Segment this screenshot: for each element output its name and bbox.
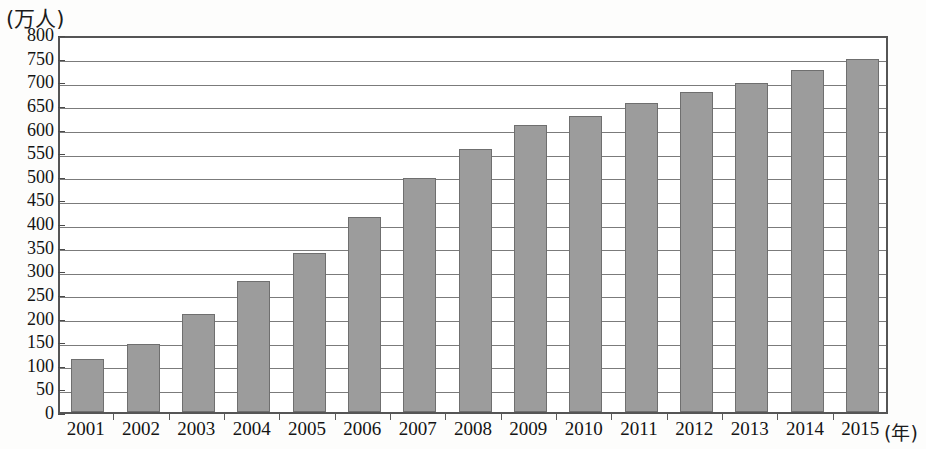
x-axis-tick-labels: 2001200220032004200520062007200820092010…	[58, 418, 888, 448]
bar	[459, 149, 492, 412]
bar-series	[60, 38, 886, 412]
bar	[293, 253, 326, 412]
x-axis-tick-mark	[169, 414, 170, 420]
x-axis-tick-mark	[390, 414, 391, 420]
y-axis-tick-mark	[58, 296, 65, 297]
y-axis-tick-mark	[58, 390, 65, 391]
y-axis-tick-mark	[58, 343, 65, 344]
y-axis-tick: 800	[2, 25, 54, 46]
y-axis-tick-mark	[58, 272, 65, 273]
x-axis-tick-mark	[556, 414, 557, 420]
x-axis-tick-mark	[722, 414, 723, 420]
y-axis-tick: 50	[2, 380, 54, 401]
bar	[735, 83, 768, 412]
x-axis-tick-mark	[777, 414, 778, 420]
x-axis-tick-mark	[279, 414, 280, 420]
y-axis-tick-mark	[58, 414, 65, 415]
y-axis-tick: 450	[2, 191, 54, 212]
bar	[127, 344, 160, 412]
bar	[348, 217, 381, 412]
y-axis-tick-labels: 0501001502002503003504004505005506006507…	[0, 36, 54, 414]
bar	[791, 70, 824, 412]
y-axis-tick: 200	[2, 309, 54, 330]
y-axis-tick: 250	[2, 285, 54, 306]
y-axis-tick: 0	[2, 403, 54, 424]
y-axis-tick-mark	[58, 83, 65, 84]
bar	[237, 281, 270, 412]
bar	[71, 359, 104, 412]
x-axis-tick-mark	[335, 414, 336, 420]
y-axis-tick-mark	[58, 36, 65, 37]
bar	[625, 103, 658, 412]
y-axis-tick-mark	[58, 107, 65, 108]
y-axis-tick-mark	[58, 131, 65, 132]
x-axis-unit-label: (年)	[884, 418, 918, 445]
y-axis-tick: 300	[2, 262, 54, 283]
y-axis-tick-mark	[58, 249, 65, 250]
y-axis-tick: 550	[2, 143, 54, 164]
y-axis-tick-mark	[58, 320, 65, 321]
bar	[514, 125, 547, 412]
x-axis-tick-mark	[833, 414, 834, 420]
x-axis-tick-mark	[445, 414, 446, 420]
bar	[403, 178, 436, 412]
y-axis-tick: 150	[2, 332, 54, 353]
x-axis-tick-mark	[611, 414, 612, 420]
x-axis-tick-mark	[224, 414, 225, 420]
y-axis-tick: 650	[2, 96, 54, 117]
bar	[680, 92, 713, 412]
y-axis-tick: 500	[2, 167, 54, 188]
y-axis-tick: 400	[2, 214, 54, 235]
y-axis-tick-mark	[58, 201, 65, 202]
y-axis-tick: 750	[2, 49, 54, 70]
y-axis-tick-mark	[58, 225, 65, 226]
bar	[182, 314, 215, 412]
y-axis-tick: 600	[2, 120, 54, 141]
y-axis-tick-mark	[58, 154, 65, 155]
y-axis-tick: 700	[2, 73, 54, 94]
x-axis-tick-mark	[501, 414, 502, 420]
bar	[569, 116, 602, 412]
x-axis-tick-mark	[113, 414, 114, 420]
y-axis-tick-mark	[58, 178, 65, 179]
y-axis-tick: 350	[2, 238, 54, 259]
plot-area	[58, 36, 888, 414]
y-axis-tick-mark	[58, 367, 65, 368]
bar	[846, 59, 879, 412]
x-axis-tick-mark	[667, 414, 668, 420]
y-axis-tick: 100	[2, 356, 54, 377]
chart-page: (万人) 05010015020025030035040045050055060…	[0, 0, 926, 449]
y-axis-tick-mark	[58, 60, 65, 61]
